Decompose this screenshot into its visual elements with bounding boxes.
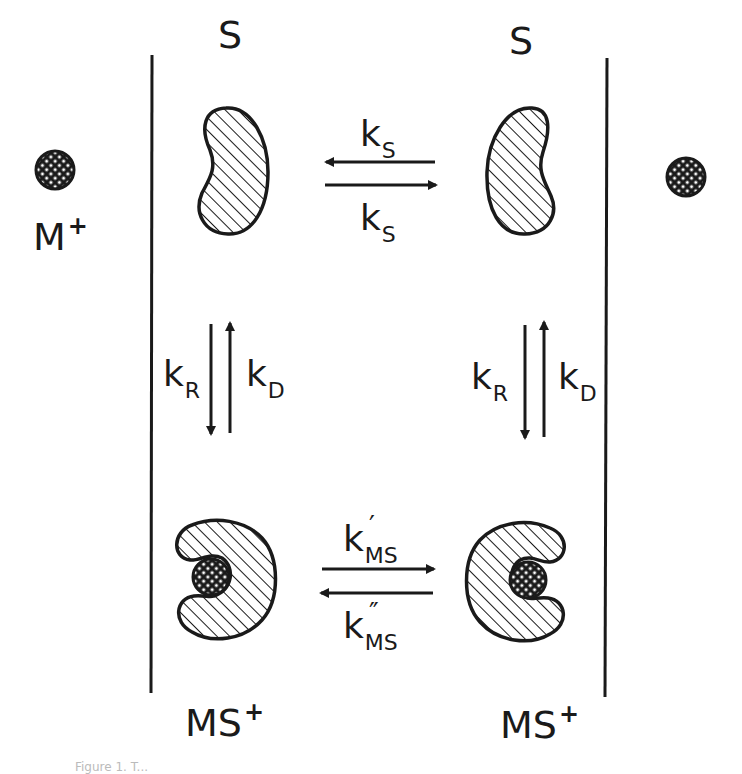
- rate-kr-left-sub: R: [185, 378, 200, 403]
- rate-ks-bottom: kS: [360, 200, 396, 236]
- label-ion-charge: +: [68, 212, 88, 240]
- membrane-left-boundary: [151, 55, 152, 693]
- label-ion-base: M: [33, 215, 66, 259]
- figure-caption-fragment: Figure 1. T...: [75, 760, 148, 774]
- rate-kms-forward-base: k: [343, 518, 364, 559]
- rate-kms-reverse-sub: MS: [365, 630, 398, 655]
- carrier-left-icon: [199, 108, 268, 234]
- rate-kr-left-base: k: [163, 353, 184, 394]
- rate-ks-bottom-sub: S: [382, 222, 396, 247]
- label-s-left: S: [218, 16, 242, 54]
- carrier-right-icon: [487, 108, 554, 234]
- label-s-right: S: [509, 22, 533, 60]
- rate-kr-right: kR: [471, 359, 508, 395]
- complex-right-icon: [467, 523, 565, 641]
- rate-kr-left: kR: [163, 356, 200, 392]
- rate-kd-left-sub: D: [268, 378, 285, 403]
- label-complex-left-charge: +: [244, 698, 264, 726]
- ion-left-icon: [36, 151, 74, 189]
- rate-kd-right-base: k: [558, 356, 579, 397]
- rate-kr-right-sub: R: [493, 381, 508, 406]
- rate-kd-left: kD: [246, 356, 285, 392]
- rate-kms-forward-prime: ′: [369, 513, 375, 539]
- rate-ks-top-sub: S: [382, 138, 396, 163]
- ion-right-icon: [667, 158, 705, 196]
- rate-kms-forward: k′MS: [343, 521, 398, 557]
- rate-kd-left-base: k: [246, 353, 267, 394]
- rate-kd-right: kD: [558, 359, 597, 395]
- rate-kms-reverse: k″MS: [343, 608, 398, 644]
- rate-kms-forward-sub: MS: [365, 543, 398, 568]
- label-complex-right: MS+: [500, 706, 579, 744]
- rate-kd-right-sub: D: [580, 381, 597, 406]
- rate-kms-reverse-prime: ″: [369, 600, 379, 626]
- membrane-right-boundary: [605, 58, 607, 697]
- rate-ks-top-base: k: [360, 113, 381, 154]
- rate-kms-reverse-base: k: [343, 605, 364, 646]
- label-ion-left: M+: [33, 218, 88, 256]
- label-complex-left-base: MS: [185, 701, 242, 745]
- label-complex-left: MS+: [185, 704, 264, 742]
- rate-ks-top: kS: [360, 116, 396, 152]
- complex-left-icon: [177, 520, 276, 638]
- label-complex-right-charge: +: [559, 700, 579, 728]
- rate-kr-right-base: k: [471, 356, 492, 397]
- rate-ks-bottom-base: k: [360, 197, 381, 238]
- label-complex-right-base: MS: [500, 703, 557, 747]
